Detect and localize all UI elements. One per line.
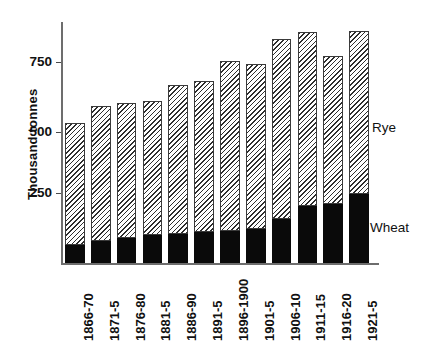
bar-segment-rye: [194, 81, 214, 232]
x-tick-label: 1866-70: [81, 293, 96, 341]
bar-segment-wheat: [246, 229, 266, 263]
bar-segment-rye: [272, 39, 292, 219]
y-tick-label-250: 250: [24, 185, 52, 200]
y-axis-title: Thousand tonnes: [25, 89, 40, 200]
bar-segment-wheat: [194, 232, 214, 263]
bar-segment-wheat: [220, 231, 240, 263]
bar-segment-wheat: [323, 204, 343, 263]
bar-segment-rye: [65, 123, 85, 245]
bar-segment-wheat: [349, 194, 369, 263]
bar-segment-rye: [168, 85, 188, 234]
x-tick-label: 1881-5: [158, 301, 173, 341]
x-tick-label: 1876-80: [133, 293, 148, 341]
bar-segment-wheat: [272, 219, 292, 263]
bar-segment-wheat: [168, 234, 188, 263]
bar-segment-rye: [246, 64, 266, 229]
bar-segment-wheat: [117, 238, 137, 263]
x-tick-label: 1901-5: [262, 301, 277, 341]
bar-segment-rye: [117, 103, 137, 238]
x-tick-label: 1911-15: [313, 294, 328, 341]
bar-segment-rye: [298, 32, 318, 206]
y-axis-line: [61, 22, 63, 264]
bar-segment-rye: [91, 106, 111, 240]
x-axis-line: [61, 263, 379, 265]
bar-segment-wheat: [143, 235, 163, 263]
x-tick-label: 1916-20: [339, 293, 354, 341]
x-tick-label: 1896-1900: [236, 279, 251, 341]
x-tick-label: 1921-5: [365, 301, 380, 341]
figure-caption: [0, 338, 424, 348]
bar-segment-rye: [220, 61, 240, 230]
legend-label-wheat: Wheat: [370, 220, 409, 235]
x-tick-label: 1871-5: [107, 301, 122, 341]
x-tick-label: 1886-90: [184, 293, 199, 341]
x-tick-label: 1906-10: [288, 293, 303, 341]
bar-segment-rye: [323, 56, 343, 204]
bar-segment-wheat: [65, 245, 85, 263]
legend-label-rye: Rye: [372, 120, 396, 135]
bar-segment-rye: [143, 101, 163, 235]
bar-segment-wheat: [91, 241, 111, 263]
x-tick-label: 1891-5: [210, 301, 225, 341]
y-tick-label-500: 500: [24, 124, 52, 139]
stacked-bar-chart: Thousand tonnes 750 500 250 1866-701871-…: [0, 0, 424, 348]
y-tick-label-750: 750: [24, 54, 52, 69]
bar-segment-rye: [349, 31, 369, 194]
bar-segment-wheat: [298, 206, 318, 263]
